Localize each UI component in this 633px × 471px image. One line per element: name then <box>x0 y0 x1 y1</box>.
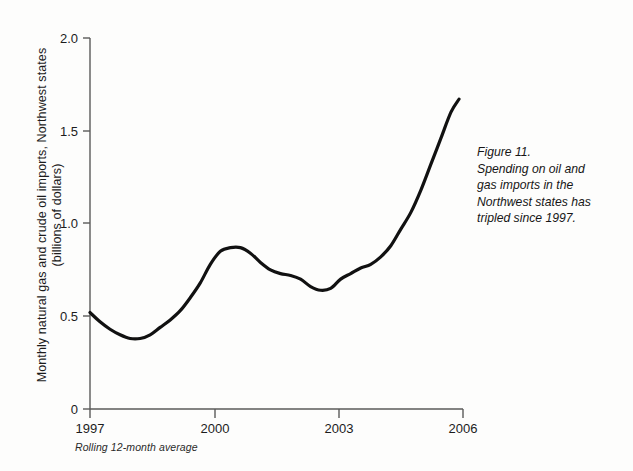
x-tick-label-2003: 2003 <box>309 421 369 436</box>
plot-area <box>0 0 470 471</box>
x-tick-label-2000: 2000 <box>185 421 245 436</box>
y-tick-label-1-5: 1.5 <box>38 124 78 139</box>
figure-caption: Figure 11. Spending on oil and gas impor… <box>477 144 627 227</box>
y-tick-label-1-0: 1.0 <box>38 216 78 231</box>
x-tick-label-1997: 1997 <box>60 421 120 436</box>
caption-line-4: Northwest states has <box>477 194 627 211</box>
caption-line-2: Spending on oil and <box>477 161 627 178</box>
caption-line-3: gas imports in the <box>477 177 627 194</box>
y-tick-label-2-0: 2.0 <box>38 31 78 46</box>
y-tick-label-0-5: 0.5 <box>38 309 78 324</box>
caption-line-1: Figure 11. <box>477 144 627 161</box>
figure-page: Monthly natural gas and crude oil import… <box>0 0 633 471</box>
caption-line-5: tripled since 1997. <box>477 210 627 227</box>
line-chart: Monthly natural gas and crude oil import… <box>0 0 470 471</box>
y-tick-label-0: 0 <box>38 402 78 417</box>
y-ticks <box>83 38 90 409</box>
chart-footnote: Rolling 12-month average <box>75 441 198 453</box>
x-ticks <box>90 409 463 418</box>
series-line-imports <box>90 99 459 339</box>
x-tick-label-2006: 2006 <box>433 421 493 436</box>
